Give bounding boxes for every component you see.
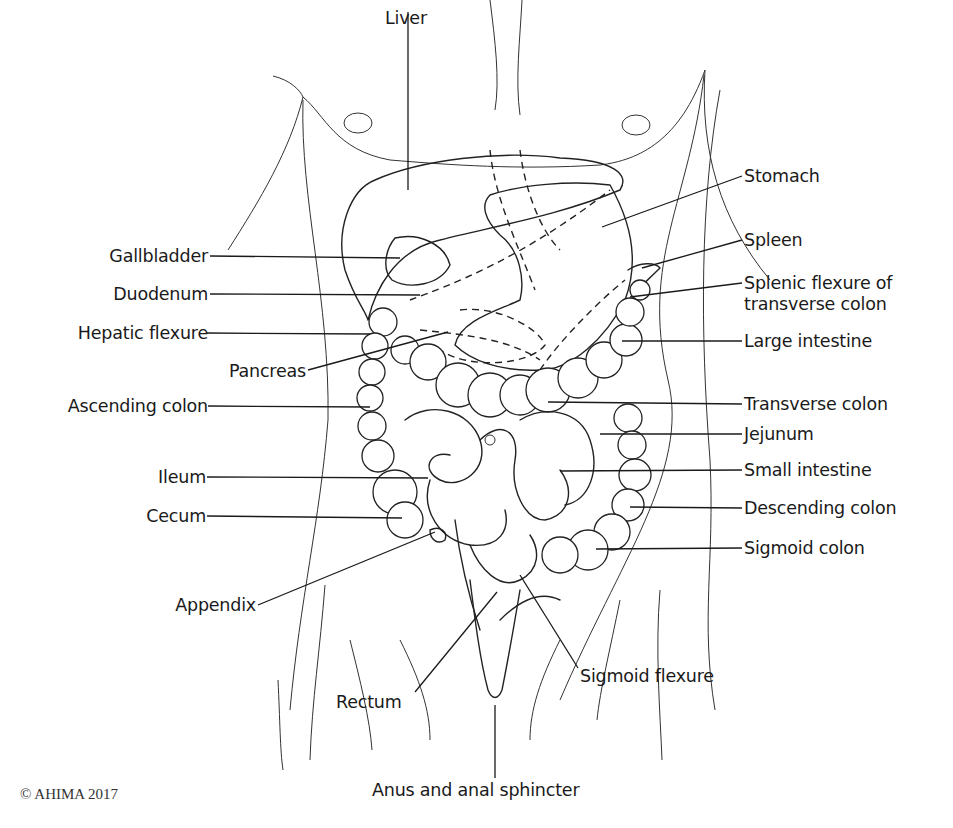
label-jejunum: Jejunum bbox=[744, 424, 814, 444]
label-splenic-flexure-line1: Splenic flexure of bbox=[744, 273, 892, 294]
label-liver: Liver bbox=[385, 8, 427, 28]
label-transverse-colon: Transverse colon bbox=[744, 394, 888, 414]
rectum-shape bbox=[470, 580, 520, 698]
label-appendix: Appendix bbox=[140, 595, 256, 615]
label-duodenum: Duodenum bbox=[40, 284, 208, 304]
label-splenic-flexure-line2: transverse colon bbox=[744, 294, 892, 315]
label-rectum: Rectum bbox=[336, 692, 402, 712]
label-splenic-flexure: Splenic flexure of transverse colon bbox=[744, 273, 892, 315]
label-small-intestine: Small intestine bbox=[744, 460, 871, 480]
label-large-intestine: Large intestine bbox=[744, 331, 872, 351]
label-sigmoid-colon: Sigmoid colon bbox=[744, 538, 865, 558]
label-sigmoid-flexure: Sigmoid flexure bbox=[580, 666, 714, 686]
label-pancreas: Pancreas bbox=[200, 361, 306, 381]
pancreas-shape bbox=[440, 309, 545, 362]
label-anus-anal-sphincter: Anus and anal sphincter bbox=[372, 780, 579, 800]
copyright-notice: © AHIMA 2017 bbox=[20, 786, 118, 803]
label-stomach: Stomach bbox=[744, 166, 820, 186]
label-ileum: Ileum bbox=[100, 467, 206, 487]
label-gallbladder: Gallbladder bbox=[40, 246, 208, 266]
small-intestine-loops bbox=[405, 410, 594, 630]
colon-loops bbox=[357, 280, 651, 573]
label-spleen: Spleen bbox=[744, 230, 803, 250]
label-ascending-colon: Ascending colon bbox=[10, 396, 208, 416]
label-hepatic-flexure: Hepatic flexure bbox=[20, 323, 208, 343]
anatomy-diagram: Liver Gallbladder Duodenum Hepatic flexu… bbox=[0, 0, 953, 828]
gallbladder-shape bbox=[386, 237, 450, 285]
label-descending-colon: Descending colon bbox=[744, 498, 896, 518]
label-cecum: Cecum bbox=[100, 506, 206, 526]
